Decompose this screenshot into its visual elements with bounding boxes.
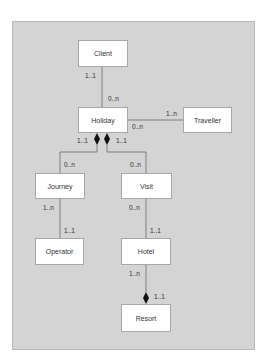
entity-holiday[interactable]: Holiday [78,107,128,133]
multiplicity-label: 0..n [130,161,141,168]
entity-label: Resort [136,315,157,322]
multiplicity-label: 1..1 [85,72,96,79]
multiplicity-label: 1..n [166,110,177,117]
composition-diamond-icon [94,133,100,145]
multiplicity-label: 1..1 [77,137,88,144]
multiplicity-label: 1..1 [116,137,127,144]
multiplicity-label: 0..n [108,95,119,102]
multiplicity-label: 0..n [129,204,140,211]
entity-resort[interactable]: Resort [121,304,171,332]
multiplicity-label: 0..n [132,123,143,130]
entity-label: Hotel [138,248,154,255]
multiplicity-label: 1..1 [154,293,165,300]
holiday-journey-line [60,145,97,173]
entity-client[interactable]: Client [78,40,128,67]
multiplicity-label: 1..n [129,270,140,277]
entity-label: Operator [46,248,74,255]
entity-label: Visit [140,183,153,190]
multiplicity-label: 1..n [43,204,54,211]
entity-operator[interactable]: Operator [35,238,84,265]
entity-label: Client [94,50,112,57]
composition-diamond-icon [104,133,110,145]
entity-traveller[interactable]: Traveller [183,107,232,133]
multiplicity-label: 0..n [64,161,75,168]
entity-label: Holiday [91,117,114,124]
multiplicity-label: 1..1 [64,227,75,234]
entity-label: Traveller [194,117,221,124]
entity-visit[interactable]: Visit [121,173,172,199]
holiday-visit-line [107,145,146,173]
entity-label: Journey [48,183,73,190]
multiplicity-label: 1..1 [150,227,161,234]
entity-hotel[interactable]: Hotel [121,238,171,265]
composition-diamond-icon [143,292,149,304]
entity-journey[interactable]: Journey [35,173,85,199]
